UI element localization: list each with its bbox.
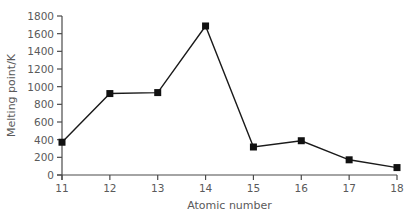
data-point [59, 139, 66, 146]
x-axis-title: Atomic number [187, 199, 272, 212]
data-point [202, 22, 209, 29]
y-tick-label: 1000 [27, 81, 54, 93]
y-tick-label: 1200 [27, 63, 54, 75]
data-point [394, 164, 401, 171]
x-tick-label: 16 [295, 182, 309, 194]
x-tick-label: 18 [390, 182, 403, 194]
y-tick-label: 800 [34, 98, 54, 110]
line-chart: 020040060080010001200140016001800 111213… [0, 0, 414, 218]
x-tick-label: 15 [247, 182, 260, 194]
data-point [154, 89, 161, 96]
data-point [346, 156, 353, 163]
x-tick-label: 17 [342, 182, 355, 194]
y-tick-label: 400 [34, 134, 54, 146]
x-tick-label: 12 [103, 182, 116, 194]
y-tick-label: 200 [34, 151, 54, 163]
y-tick-label: 1600 [27, 28, 54, 40]
y-tick-label: 0 [47, 169, 54, 181]
y-tick-label: 1400 [27, 45, 54, 57]
axes [57, 16, 397, 180]
y-axis-title: Melting point/K [5, 53, 18, 137]
x-ticks: 1112131415161718 [55, 175, 403, 194]
y-tick-label: 600 [34, 116, 54, 128]
data-point [250, 143, 257, 150]
x-tick-label: 11 [55, 182, 68, 194]
x-tick-label: 14 [199, 182, 213, 194]
y-ticks: 020040060080010001200140016001800 [27, 10, 62, 181]
data-point [298, 137, 305, 144]
x-tick-label: 13 [151, 182, 164, 194]
series-group [59, 22, 401, 171]
y-tick-label: 1800 [27, 10, 54, 22]
data-point [106, 90, 113, 97]
